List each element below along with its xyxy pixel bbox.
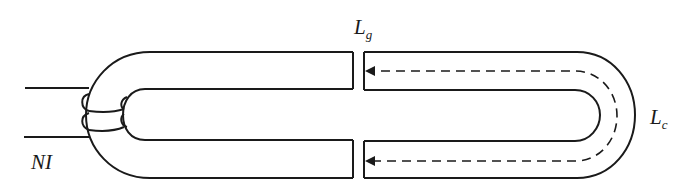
magnetic-circuit-diagram: Lg Lc NI: [0, 0, 694, 193]
gap-length-label: Lg: [353, 15, 373, 42]
flux-path-dashed: [372, 71, 617, 161]
core-right-inner: [364, 90, 600, 141]
winding: [24, 88, 127, 137]
core-left-section: [86, 52, 353, 178]
core-length-label: Lc: [649, 105, 668, 132]
core-left-outer: [86, 52, 353, 178]
winding-mmf-label: NI: [30, 150, 53, 174]
coil-turn-1: [89, 109, 124, 112]
flux-arrow-bottom-icon: [365, 156, 375, 166]
coil-turn-2: [89, 127, 124, 131]
core-left-inner: [123, 89, 353, 140]
flux-arrow-top-icon: [365, 66, 375, 76]
